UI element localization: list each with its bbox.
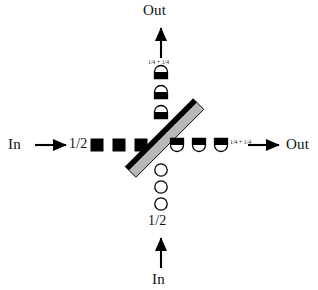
bottom-input-amplitude-label: 1/2 bbox=[148, 214, 167, 228]
token-open-circle bbox=[155, 198, 167, 210]
right-output-amplitude-label: 1/4 + 1/4 bbox=[230, 140, 251, 146]
top-output-token-group bbox=[155, 66, 168, 119]
left-input-amplitude-label: 1/2 bbox=[69, 137, 88, 151]
diagram-canvas bbox=[0, 0, 318, 290]
token-open-circle bbox=[155, 181, 167, 193]
bottom-input-label: In bbox=[152, 272, 165, 287]
token-bottom-half-dome bbox=[155, 66, 168, 79]
right-output-token-group bbox=[171, 139, 228, 152]
bottom-input-token-group bbox=[155, 164, 167, 210]
left-input-token-group bbox=[91, 139, 148, 152]
top-output-amplitude-label: 1/4 + 1/4 bbox=[148, 60, 169, 66]
right-output-label: Out bbox=[286, 137, 309, 152]
token-filled-square bbox=[91, 139, 104, 152]
token-open-circle bbox=[155, 164, 167, 176]
token-top-half-dome bbox=[193, 139, 206, 152]
token-bottom-half-dome bbox=[155, 106, 168, 119]
left-input-label: In bbox=[8, 137, 21, 152]
token-bottom-half-dome bbox=[155, 86, 168, 99]
token-filled-square bbox=[113, 139, 126, 152]
beam-splitter-diagram: In 1/2 Out 1/4 + 1/4 Out 1/4 + 1/4 1/2 I… bbox=[0, 0, 318, 290]
top-output-label: Out bbox=[143, 3, 166, 18]
token-top-half-dome bbox=[215, 139, 228, 152]
token-top-half-dome bbox=[171, 139, 184, 152]
